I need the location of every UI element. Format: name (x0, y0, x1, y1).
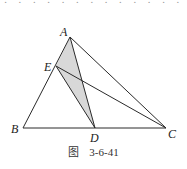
caption-prefix: 图 (68, 146, 79, 158)
label-a: A (59, 25, 68, 39)
label-e: E (43, 60, 52, 74)
shaded-triangle-aed (56, 37, 95, 128)
segment-ab (23, 37, 70, 128)
label-c: C (168, 127, 177, 141)
figure-caption: 图3-6-41 (0, 143, 187, 159)
caption-number: 3-6-41 (89, 146, 118, 158)
label-b: B (11, 122, 19, 136)
